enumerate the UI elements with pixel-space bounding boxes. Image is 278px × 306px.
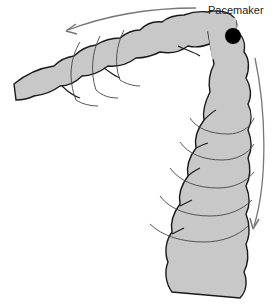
pacemaker-dot <box>225 28 241 44</box>
vertical-gut-segment <box>166 28 251 298</box>
pacemaker-label: Pacemaker <box>208 4 264 16</box>
diagram-canvas: Pacemaker <box>0 0 278 306</box>
horizontal-gut-segment <box>14 11 237 100</box>
aboral-direction-arrow <box>254 58 264 226</box>
fold-line <box>62 86 80 98</box>
gut-diagram <box>0 0 278 306</box>
